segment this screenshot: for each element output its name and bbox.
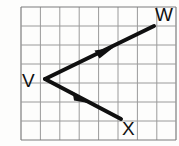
angle-diagram-canvas: V W X [0, 0, 179, 146]
angle-diagram-figure: V W X [0, 0, 179, 146]
vertex-label-w: W [155, 4, 173, 25]
vertex-label-v: V [22, 70, 35, 91]
vertex-label-x: X [122, 118, 135, 139]
ray-vw-arrowhead-icon [95, 48, 114, 59]
ray-vx [45, 79, 121, 119]
